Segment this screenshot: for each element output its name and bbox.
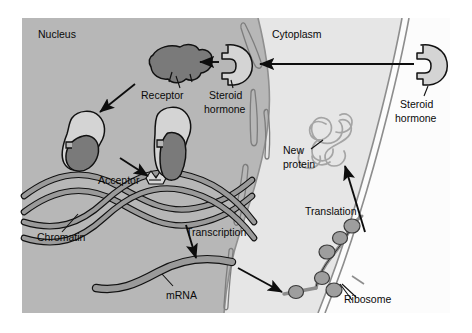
ribosome-bead bbox=[289, 286, 304, 299]
nucleus-label: Nucleus bbox=[38, 28, 76, 40]
new-protein-label-line1: New bbox=[283, 144, 304, 156]
ribosome-bead bbox=[319, 245, 335, 259]
steroid-hormone-diagram: Nucleus Cytoplasm Receptor Steroid hormo… bbox=[0, 0, 472, 333]
steroid-hormone-inside-label-line1: Steroid bbox=[209, 89, 242, 101]
new-protein-label-line2: protein bbox=[283, 158, 315, 170]
ribosome-bead bbox=[315, 272, 330, 285]
mrna-label: mRNA bbox=[166, 289, 197, 301]
steroid-hormone-inside-label-line2: hormone bbox=[204, 103, 246, 115]
steroid-hormone-outside-label-line1: Steroid bbox=[400, 98, 433, 110]
ribosome-label: Ribosome bbox=[344, 293, 391, 305]
translation-label: Translation bbox=[305, 205, 357, 217]
diagram-canvas: Nucleus Cytoplasm Receptor Steroid hormo… bbox=[0, 0, 472, 333]
transcription-label: Transcription bbox=[186, 226, 246, 238]
cytoplasm-label: Cytoplasm bbox=[272, 28, 322, 40]
receptor-label: Receptor bbox=[141, 89, 184, 101]
chromatin-label: Chromatin bbox=[37, 231, 86, 243]
acceptor-label: Acceptor bbox=[98, 174, 140, 186]
ribosome-bead bbox=[333, 232, 348, 245]
ribosome-bead bbox=[326, 283, 342, 297]
ribosome-bead bbox=[344, 219, 360, 233]
steroid-hormone-outside-label-line2: hormone bbox=[395, 112, 437, 124]
